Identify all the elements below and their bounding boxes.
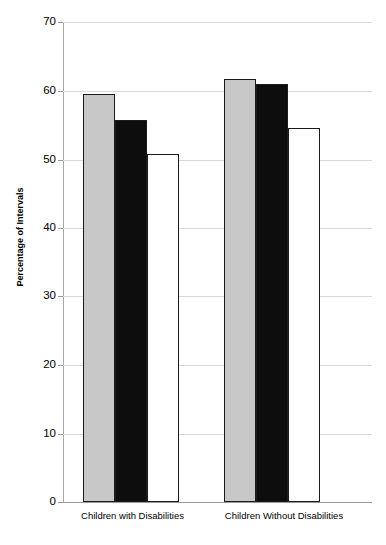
bar-group1-series2[interactable] xyxy=(115,120,147,502)
x-axis-label-group-2: Children Without Disabilities xyxy=(204,510,364,521)
bar-group2-series2[interactable] xyxy=(256,84,288,502)
y-tick-label-40: 40 xyxy=(10,222,56,234)
y-tick-label-10: 10 xyxy=(10,428,56,440)
y-tick-label-20: 20 xyxy=(10,359,56,371)
plot-area xyxy=(63,22,372,502)
x-axis-label-group-1: Children with Disabilities xyxy=(63,510,202,521)
y-tick-label-30: 30 xyxy=(10,290,56,302)
bar-group1-series1[interactable] xyxy=(83,94,115,502)
gridline-70 xyxy=(63,22,372,23)
y-tick-label-70: 70 xyxy=(10,16,56,28)
bar-group1-series3[interactable] xyxy=(147,154,179,502)
bar-group2-series3[interactable] xyxy=(288,128,320,502)
bar-chart: Percentage of Intervals 70 60 50 40 30 2… xyxy=(0,0,386,545)
bar-group2-series1[interactable] xyxy=(224,79,256,502)
y-tick-label-0: 0 xyxy=(10,496,56,508)
gridline-baseline-0 xyxy=(63,502,372,503)
y-tick-label-50: 50 xyxy=(10,154,56,166)
gridline-60 xyxy=(63,91,372,92)
y-tick-label-60: 60 xyxy=(10,85,56,97)
